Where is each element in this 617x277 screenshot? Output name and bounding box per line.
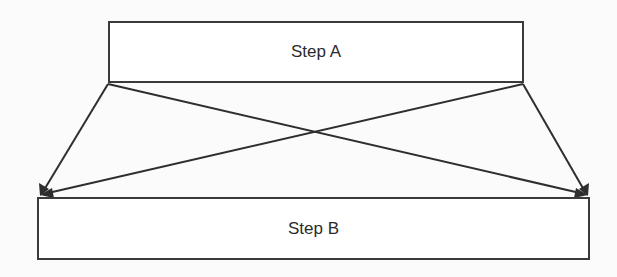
arrow-a-left-to-b-right (108, 84, 588, 198)
flow-diagram: Step A Step B (0, 0, 617, 277)
arrowhead-icon (39, 183, 49, 196)
arrow-a-right-to-b-left (40, 84, 523, 198)
arrow-a-right-to-b-right (523, 84, 589, 196)
step-b-label: Step B (288, 219, 339, 239)
arrowhead-icon (579, 183, 589, 196)
step-a-box: Step A (108, 21, 524, 83)
step-a-label: Step A (291, 42, 341, 62)
step-b-box: Step B (37, 197, 590, 260)
arrow-a-left-to-b-left (39, 84, 108, 196)
